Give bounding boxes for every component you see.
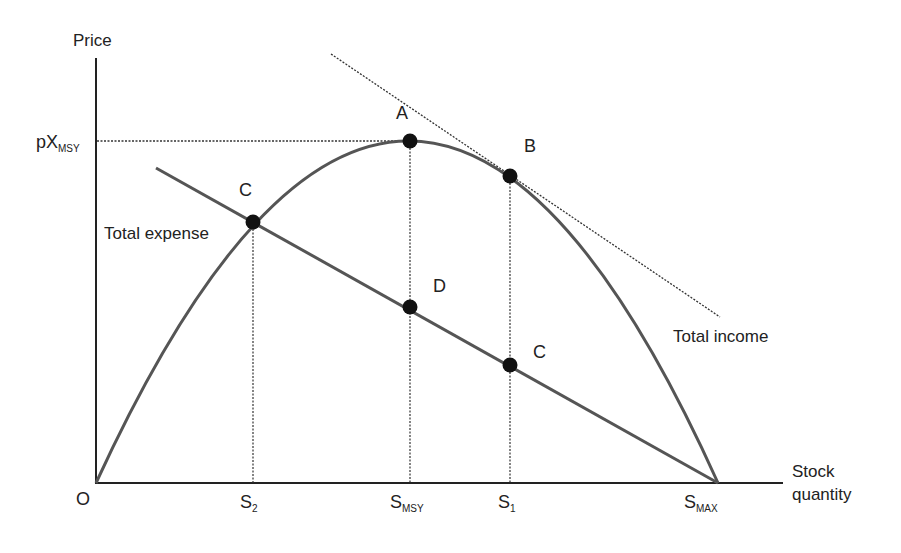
x-axis-title-line2: quantity: [792, 485, 852, 504]
point-d-dot: [403, 300, 418, 315]
point-c-left-dot: [246, 215, 261, 230]
total-expense-line: [156, 168, 718, 483]
point-a-dot: [403, 134, 418, 149]
x-axis-title-line1: Stock: [792, 462, 835, 481]
total-expense-label: Total expense: [104, 224, 209, 243]
point-d-label: D: [433, 276, 446, 296]
point-b-dot: [503, 169, 518, 184]
y-tick-pxmsy: pXMSY: [36, 132, 80, 154]
x-tick-smsy: SMSY: [390, 492, 424, 514]
point-c-right-dot: [503, 358, 518, 373]
x-tick-s2: S2: [240, 492, 258, 514]
point-c-left-label: C: [239, 180, 252, 200]
tangent-line: [331, 54, 720, 317]
point-a-label: A: [396, 103, 408, 123]
total-income-label: Total income: [673, 327, 768, 346]
diagram-canvas: A B C D C Total expense Total income Pri…: [0, 0, 901, 553]
y-axis-title: Price: [73, 31, 112, 50]
x-tick-s1: S1: [498, 492, 516, 514]
x-tick-origin: O: [76, 489, 90, 509]
point-b-label: B: [524, 136, 536, 156]
x-tick-smax: SMAX: [684, 492, 718, 514]
point-c-right-label: C: [533, 342, 546, 362]
